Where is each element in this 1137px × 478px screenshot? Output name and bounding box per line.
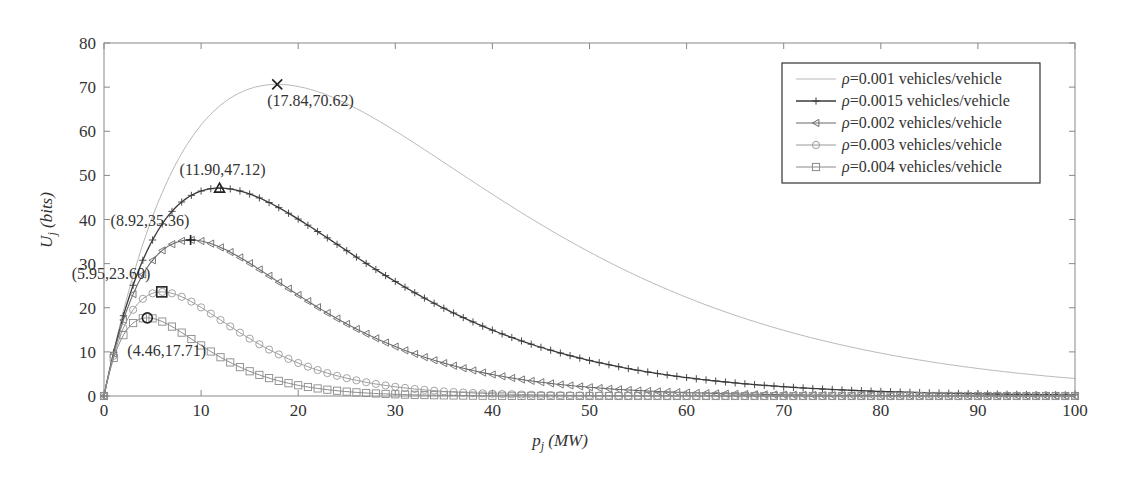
svg-text:pj (MW): pj (MW) bbox=[531, 431, 588, 453]
x-tick-label: 0 bbox=[100, 401, 109, 420]
peak-annotations: (17.84,70.62)(11.90,47.12)(8.92,35.36)(5… bbox=[72, 92, 354, 359]
ylabel-unit: (bits) bbox=[37, 192, 56, 228]
peak-annotation: (4.46,17.71) bbox=[127, 342, 206, 360]
x-tick-label: 40 bbox=[484, 401, 501, 420]
svg-text:ρ=0.003 vehicles/vehicle: ρ=0.003 vehicles/vehicle bbox=[841, 136, 1002, 154]
rho-symbol: ρ bbox=[841, 158, 850, 176]
peak-annotation: (8.92,35.36) bbox=[111, 212, 190, 230]
x-tick-label: 60 bbox=[678, 401, 695, 420]
series-0.003 bbox=[100, 287, 1078, 400]
y-tick-label: 10 bbox=[79, 343, 96, 362]
rho-symbol: ρ bbox=[841, 114, 850, 132]
x-tick-label: 10 bbox=[193, 401, 210, 420]
x-tick-label: 80 bbox=[872, 401, 889, 420]
svg-text:ρ=0.002 vehicles/vehicle: ρ=0.002 vehicles/vehicle bbox=[841, 114, 1002, 132]
svg-text:Uj (bits): Uj (bits) bbox=[37, 192, 59, 248]
rho-symbol: ρ bbox=[841, 92, 850, 110]
legend-label: =0.001 vehicles/vehicle bbox=[850, 70, 1002, 87]
series-0.004 bbox=[100, 313, 1078, 400]
y-tick-label: 50 bbox=[79, 166, 96, 185]
series-0.0015 bbox=[100, 183, 1078, 400]
y-axis-label: Uj (bits) bbox=[37, 192, 59, 248]
y-tick-label: 70 bbox=[79, 78, 96, 97]
x-tick-label: 50 bbox=[581, 401, 598, 420]
svg-text:ρ=0.001 vehicles/vehicle: ρ=0.001 vehicles/vehicle bbox=[841, 70, 1002, 88]
y-tick-label: 40 bbox=[79, 211, 96, 230]
legend: ρ=0.001 vehicles/vehicle ρ=0.0015 vehicl… bbox=[782, 63, 1040, 183]
x-axis-label: pj (MW) bbox=[531, 431, 588, 453]
y-tick-label: 80 bbox=[79, 34, 96, 53]
line-chart: 010203040506070809010001020304050607080 … bbox=[0, 0, 1137, 478]
legend-label: =0.002 vehicles/vehicle bbox=[850, 114, 1002, 131]
x-tick-label: 70 bbox=[775, 401, 792, 420]
xlabel-unit: (MW) bbox=[548, 431, 588, 450]
peak-annotation: (5.95,23.60) bbox=[72, 265, 151, 283]
x-tick-label: 20 bbox=[290, 401, 307, 420]
legend-label: =0.004 vehicles/vehicle bbox=[850, 158, 1002, 175]
x-tick-label: 90 bbox=[969, 401, 986, 420]
svg-text:ρ=0.0015 vehicles/vehicle: ρ=0.0015 vehicles/vehicle bbox=[841, 92, 1010, 110]
legend-label: =0.003 vehicles/vehicle bbox=[850, 136, 1002, 153]
y-tick-label: 60 bbox=[79, 122, 96, 141]
peak-annotation: (17.84,70.62) bbox=[267, 92, 354, 110]
x-tick-label: 100 bbox=[1062, 401, 1088, 420]
y-tick-label: 0 bbox=[88, 387, 97, 406]
legend-label: =0.0015 vehicles/vehicle bbox=[850, 92, 1010, 109]
x-tick-label: 30 bbox=[387, 401, 404, 420]
rho-symbol: ρ bbox=[841, 70, 850, 88]
svg-text:ρ=0.004 vehicles/vehicle: ρ=0.004 vehicles/vehicle bbox=[841, 158, 1002, 176]
rho-symbol: ρ bbox=[841, 136, 850, 154]
y-tick-label: 20 bbox=[79, 299, 96, 318]
chart: 010203040506070809010001020304050607080 … bbox=[0, 0, 1137, 478]
peak-annotation: (11.90,47.12) bbox=[180, 161, 266, 179]
xlabel-main: p bbox=[531, 431, 541, 450]
